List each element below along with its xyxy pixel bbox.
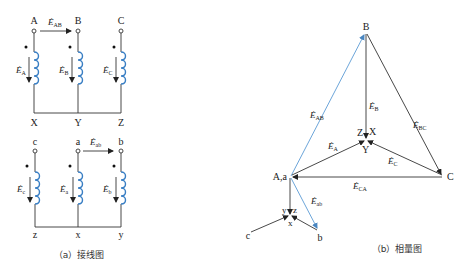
terminal-C [119,29,123,33]
label-A: A [30,15,38,26]
vertex-c: c [246,230,251,241]
vertex-x: x [288,218,293,228]
label-vec-Eab: Ėab [310,196,322,207]
label-Eb: Ėb [102,184,112,195]
label-Ec: Ėc [16,184,26,195]
polarity-dot-a [69,165,72,168]
coil-icon-b [121,172,126,204]
phasor-diagram [251,34,442,232]
vertex-C: C [447,171,454,182]
label-EC: ĖC [102,65,113,76]
vertex-B: B [363,21,370,32]
coil-icon-B [78,52,83,84]
label-X: X [30,117,38,128]
label-EA: ĖA [15,65,27,76]
wiring-lower [30,149,123,227]
label-z: z [33,229,38,240]
terminal-b [119,149,123,153]
polarity-dot-c [26,165,29,168]
coil-icon-A [34,52,39,84]
vertex-b: b [318,232,323,243]
label-c: c [33,136,38,147]
label-vec-EBC: ĖBC [412,120,427,131]
label-vec-EC: ĖC [387,156,398,167]
polarity-dot-B [69,46,72,49]
label-B: B [75,15,82,26]
coil-icon-a [78,172,83,204]
label-vec-ECA: ĖCA [352,181,368,192]
label-C: C [118,15,125,26]
terminal-A [32,29,36,33]
label-Eab: Ėab [89,137,101,148]
coil-icon-C [121,52,126,84]
vector-Eb [292,216,317,230]
caption-b: （b）相量图 [372,243,423,254]
label-vec-EA: ĖA [327,141,339,152]
vertex-Z: Z [357,127,363,138]
label-x: x [76,229,81,240]
label-Z: Z [118,117,124,128]
vertex-Y: Y [362,144,369,155]
vector-EC [368,141,442,175]
vector-Ec [251,216,288,232]
label-vec-EAB: ĖAB [309,110,324,121]
terminal-c [33,149,37,153]
label-vec-EB: ĖB [368,101,379,112]
terminal-B [76,29,80,33]
polarity-dot-C [113,46,116,49]
diagram-canvas: A B C X Y Z ĖAB ĖA ĖB ĖC c a b z x y Ėab… [0,0,465,272]
vertex-y: y [282,205,287,215]
vector-EAB [291,35,364,176]
label-EB: ĖB [58,65,69,76]
label-y: y [119,229,124,240]
polarity-dot-A [25,46,28,49]
caption-a: （a）接线图 [54,249,105,260]
label-a: a [76,136,81,147]
label-b: b [119,136,124,147]
vector-EBC [367,34,441,174]
polarity-dot-b [113,165,116,168]
label-EAB: ĖAB [47,17,62,28]
vertex-Aa: A,a [273,171,288,182]
terminal-a [76,149,80,153]
label-Ea: Ėa [59,184,69,195]
vertex-z: z [293,205,297,215]
coil-icon-c [35,172,40,204]
label-Y: Y [74,117,81,128]
vertex-X: X [369,126,377,137]
